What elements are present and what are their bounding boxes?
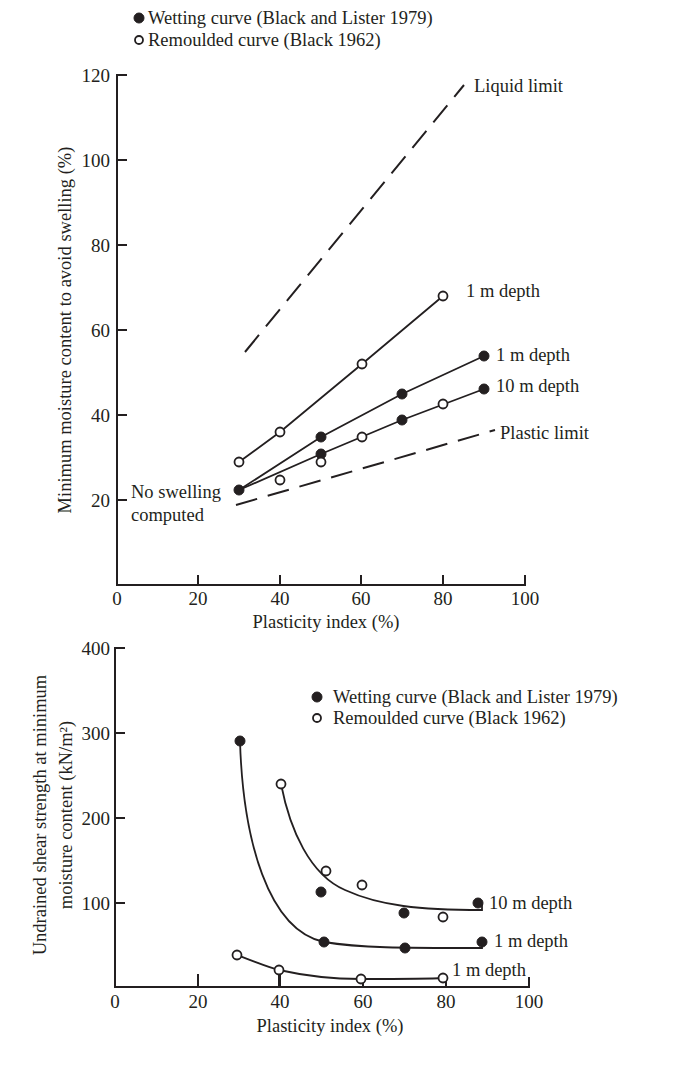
x-axis-label: Plasticity index (%) [253, 612, 400, 633]
y-tick-100: 100 [82, 150, 111, 171]
bottom-chart: 400 300 200 100 0 20 40 60 80 100 Plasti… [30, 638, 618, 1037]
y-axis-label-line2: moisture content (kN/m²) [56, 721, 77, 909]
legend-open-marker-icon [313, 714, 321, 722]
remoulded-1m-curve [237, 955, 443, 979]
x-tick-0: 0 [112, 588, 122, 609]
x-axis-label: Plasticity index (%) [257, 1016, 404, 1037]
wetting-1m-label: 1 m depth [496, 345, 570, 365]
legend-filled-label: Wetting curve (Black and Lister 1979) [148, 8, 433, 29]
x-tick-60: 60 [354, 991, 373, 1012]
wetting-10m-label: 10 m depth [496, 376, 579, 396]
remoulded-1m-label: 1 m depth [452, 960, 526, 980]
x-tick-0: 0 [110, 991, 120, 1012]
y-tick-20: 20 [91, 490, 110, 511]
y-axis-label-line1: Undrained shear strength at minimum [30, 674, 50, 955]
x-tick-100: 100 [511, 588, 540, 609]
y-tick-80: 80 [91, 235, 110, 256]
x-tick-80: 80 [437, 991, 456, 1012]
legend-open-marker-icon [135, 36, 143, 44]
y-axis-label: Minimum moisture content to avoid swelli… [55, 147, 76, 514]
no-swelling-annotation-line2: computed [131, 505, 205, 525]
figure: 120 100 80 60 40 20 0 20 40 60 80 100 Pl… [0, 0, 692, 1077]
x-tick-80: 80 [434, 588, 453, 609]
y-tick-40: 40 [91, 405, 110, 426]
x-tick-20: 20 [189, 991, 208, 1012]
legend-filled-label: Wetting curve (Black and Lister 1979) [333, 687, 618, 708]
y-tick-200: 200 [82, 808, 111, 829]
wetting-1m-label: 1 m depth [494, 931, 568, 951]
no-swelling-annotation-line1: No swelling [131, 482, 221, 502]
remoulded-1m-label: 1 m depth [466, 281, 540, 301]
legend-open-label: Remoulded curve (Black 1962) [148, 30, 381, 51]
legend-open-label: Remoulded curve (Black 1962) [333, 708, 566, 729]
liquid-limit-label: Liquid limit [474, 76, 564, 96]
wetting-1m-line [239, 356, 484, 490]
y-tick-300: 300 [82, 723, 111, 744]
x-tick-100: 100 [515, 991, 544, 1012]
y-tick-120: 120 [82, 65, 111, 86]
x-tick-20: 20 [189, 588, 208, 609]
x-tick-60: 60 [352, 588, 371, 609]
legend-filled-marker-icon [134, 13, 144, 23]
x-tick-40: 40 [271, 588, 290, 609]
y-tick-400: 400 [82, 638, 111, 659]
legend-filled-marker-icon [312, 692, 322, 702]
liquid-limit-line [245, 85, 464, 352]
y-tick-60: 60 [91, 320, 110, 341]
top-chart: 120 100 80 60 40 20 0 20 40 60 80 100 Pl… [55, 8, 590, 633]
depth-10m-curve [281, 784, 482, 910]
plastic-limit-label: Plastic limit [500, 423, 590, 443]
y-tick-100: 100 [82, 893, 111, 914]
depth-10m-label: 10 m depth [489, 893, 572, 913]
x-tick-40: 40 [271, 991, 290, 1012]
